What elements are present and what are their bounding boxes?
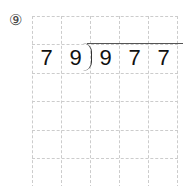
- grid-line: [32, 101, 178, 102]
- grid-line: [32, 16, 178, 17]
- divisor-digit: 7: [32, 44, 61, 72]
- grid-line: [32, 130, 178, 131]
- worksheet-grid: [32, 16, 178, 186]
- dividend-digit: 9: [91, 44, 120, 72]
- dividend-digit: 7: [120, 44, 149, 72]
- grid-line: [32, 158, 178, 159]
- dividend-digit: 7: [149, 44, 178, 72]
- problem-number: ⑨: [9, 11, 22, 29]
- grid-line: [32, 73, 178, 74]
